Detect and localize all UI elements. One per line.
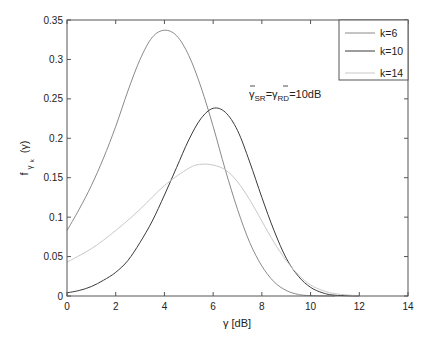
x-tick-label: 0 (64, 301, 70, 312)
x-tick-label: 6 (210, 301, 216, 312)
series-line-k-10 (67, 108, 359, 296)
series-line-k-6 (67, 30, 335, 296)
x-tick-label: 2 (113, 301, 119, 312)
x-tick-label: 12 (354, 301, 366, 312)
y-tick-label: 0.3 (49, 54, 63, 65)
y-label-subsub: k (29, 158, 35, 162)
x-tick-label: 10 (305, 301, 317, 312)
annotation: γSR=γRD=10dB (249, 88, 321, 103)
y-tick-label: 0.1 (49, 212, 63, 223)
curves (67, 30, 359, 296)
legend-label: k=6 (380, 27, 397, 39)
y-label-arg: (γ) (18, 140, 30, 153)
annotation-value: =10dB (289, 88, 321, 100)
annotation-sub-rd: RD (278, 94, 290, 103)
y-tick-label: 0 (57, 291, 63, 302)
y-label-f: f (18, 172, 30, 176)
y-tick-label: 0.15 (44, 172, 64, 183)
line-chart: 02468101214 00.050.10.150.20.250.30.35 γ… (0, 0, 429, 342)
y-label-sub: γ (25, 165, 34, 169)
y-tick-label: 0.35 (44, 15, 64, 26)
svg-text:f γ k (γ): f γ k (γ) (18, 140, 36, 175)
x-tick-label: 8 (259, 301, 265, 312)
x-tick-label: 14 (402, 301, 414, 312)
y-tick-label: 0.25 (44, 93, 64, 104)
y-tick-label: 0.05 (44, 251, 64, 262)
legend: k=6k=10k=14 (339, 20, 408, 80)
y-axis-label: f γ k (γ) (18, 140, 36, 175)
x-tick-label: 4 (162, 301, 168, 312)
annotation-sub-sr: SR (255, 94, 266, 103)
legend-label: k=10 (380, 45, 403, 57)
legend-label: k=14 (380, 67, 403, 79)
x-axis-label: γ [dB] (223, 317, 251, 329)
y-tick-label: 0.2 (49, 133, 63, 144)
